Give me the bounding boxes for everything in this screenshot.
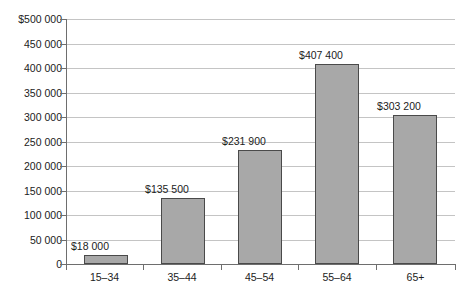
gridline: [66, 44, 455, 45]
x-axis-label-35-44: 35–44: [143, 272, 221, 283]
y-axis-tick-label: 250 000: [0, 137, 62, 148]
x-axis-tick: [143, 265, 144, 270]
y-axis-tick-label: 200 000: [0, 161, 62, 172]
bar-45-54[interactable]: [238, 150, 282, 264]
y-axis-tick-label: 150 000: [0, 186, 62, 197]
y-axis-tick-label: $500 000: [0, 14, 62, 25]
x-axis-tick: [221, 265, 222, 270]
y-axis-tick-label: 100 000: [0, 210, 62, 221]
y-axis-tick-label: 300 000: [0, 112, 62, 123]
bar-value-label-15-34: $18 000: [54, 241, 126, 252]
gridline: [66, 19, 455, 20]
bar-value-label-45-54: $231 900: [208, 136, 280, 147]
y-axis-labels: $500 000 450 000 400 000 350 000 300 000…: [0, 0, 62, 299]
gridline: [66, 93, 455, 94]
bar-value-label-35-44: $135 500: [131, 184, 203, 195]
x-axis-label-45-54: 45–54: [221, 272, 298, 283]
x-axis-tick: [455, 265, 456, 270]
x-axis-tick: [66, 265, 67, 270]
y-axis-tick-label: 350 000: [0, 88, 62, 99]
x-axis-label-65-plus: 65+: [376, 272, 455, 283]
x-axis-line: [66, 264, 456, 265]
bar-55-64[interactable]: [315, 64, 359, 264]
y-axis-tick-label: 50 000: [0, 235, 62, 246]
bar-35-44[interactable]: [161, 198, 205, 264]
y-axis-tick-label: 400 000: [0, 63, 62, 74]
bar-65-plus[interactable]: [393, 115, 437, 264]
bar-15-34[interactable]: [84, 255, 128, 264]
y-axis-tick-label: 450 000: [0, 39, 62, 50]
x-axis-label-55-64: 55–64: [298, 272, 376, 283]
bar-chart: $500 000 450 000 400 000 350 000 300 000…: [0, 0, 470, 299]
x-axis-label-15-34: 15–34: [66, 272, 143, 283]
x-axis-tick: [376, 265, 377, 270]
bar-value-label-55-64: $407 400: [285, 50, 357, 61]
gridline: [66, 68, 455, 69]
bar-value-label-65-plus: $303 200: [363, 101, 435, 112]
y-axis-tick-label: 0: [0, 259, 62, 270]
y-axis-line: [66, 19, 67, 265]
x-axis-tick: [298, 265, 299, 270]
